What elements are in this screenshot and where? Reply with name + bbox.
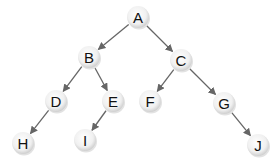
node-i: I <box>74 129 97 153</box>
node-label: A <box>133 9 143 26</box>
node-d: D <box>45 90 68 114</box>
edges-group <box>30 25 250 136</box>
edge-d-h <box>30 110 48 133</box>
node-label: J <box>254 137 262 154</box>
edge-b-e <box>95 68 108 91</box>
node-g: G <box>213 92 236 116</box>
node-label: I <box>83 132 87 149</box>
edge-c-g <box>189 68 215 94</box>
edge-a-b <box>98 25 128 50</box>
edge-e-i <box>92 111 106 131</box>
node-a: A <box>127 6 150 30</box>
node-label: D <box>51 93 62 110</box>
edge-g-j <box>232 112 251 135</box>
node-label: B <box>84 49 94 66</box>
tree-diagram: ABCDEFGHIJ <box>0 0 279 164</box>
node-e: E <box>102 90 125 114</box>
node-c: C <box>170 49 193 73</box>
node-label: C <box>176 52 187 69</box>
node-b: B <box>78 46 101 70</box>
node-label: H <box>18 135 29 152</box>
nodes-group: ABCDEFGHIJ <box>12 6 270 158</box>
node-label: G <box>218 95 230 112</box>
node-f: F <box>139 90 162 114</box>
edge-c-f <box>157 70 174 92</box>
edge-a-c <box>146 25 172 51</box>
edge-b-d <box>63 67 82 92</box>
node-label: E <box>108 93 118 110</box>
node-h: H <box>12 132 35 156</box>
node-j: J <box>247 134 270 158</box>
node-label: F <box>145 93 154 110</box>
